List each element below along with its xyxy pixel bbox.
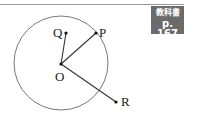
label-r: R [121, 94, 130, 109]
label-p: P [99, 25, 106, 40]
point-p [94, 31, 97, 34]
point-o [59, 62, 62, 65]
point-r [114, 100, 117, 103]
point-q [64, 31, 67, 34]
geometry-diagram: O P Q R [0, 0, 200, 117]
label-q: Q [53, 25, 63, 40]
segment-op [61, 33, 96, 64]
label-o: O [55, 69, 64, 84]
